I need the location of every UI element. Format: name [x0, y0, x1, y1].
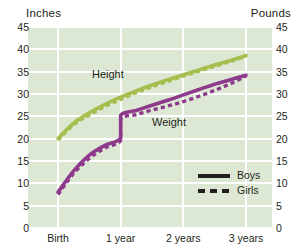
x-tick-label: 3 years	[229, 232, 263, 244]
left-y-tick-label: 35	[3, 67, 29, 78]
left-y-tick-label: 30	[3, 89, 29, 100]
legend: Boys Girls	[198, 168, 260, 198]
right-y-tick-label: 45	[276, 22, 297, 33]
right-y-tick-label: 25	[276, 111, 297, 122]
left-y-tick-label: 45	[3, 22, 29, 33]
right-y-tick-label: 35	[276, 67, 297, 78]
left-y-tick-label: 5	[3, 201, 29, 212]
left-y-tick-label: 10	[3, 178, 29, 189]
right-y-tick-label: 20	[276, 134, 297, 145]
left-y-tick-label: 15	[3, 156, 29, 167]
legend-label-boys: Boys	[237, 170, 260, 181]
left-y-tick-label: 20	[3, 134, 29, 145]
legend-item-girls: Girls	[198, 183, 260, 198]
dashed-line-icon	[198, 183, 230, 198]
x-tick-label: Birth	[47, 232, 69, 244]
left-y-tick-label: 25	[3, 111, 29, 122]
x-tick-label: 1 year	[106, 232, 135, 244]
growth-chart: Inches Pounds 454035302520151050 4540353…	[0, 0, 297, 248]
right-y-tick-label: 40	[276, 44, 297, 55]
legend-item-boys: Boys	[198, 168, 260, 183]
right-y-tick-label: 15	[276, 156, 297, 167]
solid-line-icon	[198, 168, 230, 183]
legend-label-girls: Girls	[237, 185, 259, 196]
right-axis-title: Pounds	[251, 7, 291, 19]
series-label-height: Height	[92, 68, 124, 80]
right-y-tick-label: 30	[276, 89, 297, 100]
left-axis-title: Inches	[26, 7, 61, 19]
series-label-weight: Weight	[152, 116, 186, 128]
right-y-tick-label: 0	[276, 223, 297, 234]
x-tick-label: 2 years	[166, 232, 200, 244]
right-y-tick-label: 5	[276, 201, 297, 212]
right-y-tick-label: 10	[276, 178, 297, 189]
left-y-tick-label: 40	[3, 44, 29, 55]
left-y-tick-label: 0	[3, 223, 29, 234]
